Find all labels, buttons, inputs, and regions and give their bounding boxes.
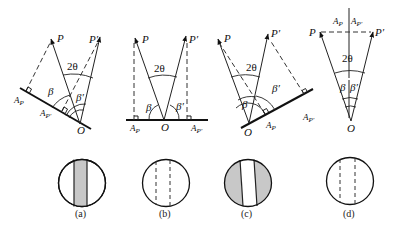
angle-2theta-arc xyxy=(63,74,93,78)
label-o: O xyxy=(161,121,169,133)
viewer-c: (c) xyxy=(220,155,280,220)
vector-p xyxy=(320,32,351,121)
label-beta-prime: β′ xyxy=(271,82,280,94)
label-beta-prime: β′ xyxy=(349,81,358,93)
label-beta: β xyxy=(339,81,346,93)
label-o: O xyxy=(77,124,85,136)
label-p-prime: P′ xyxy=(88,33,99,45)
viewer-d: (d) xyxy=(327,158,374,221)
label-2theta: 2θ xyxy=(67,60,78,72)
label-o: O xyxy=(347,122,355,134)
label-a-p: AP xyxy=(13,95,25,107)
label-p: P xyxy=(223,32,231,44)
label-beta: β xyxy=(241,98,248,110)
label-2theta: 2θ xyxy=(246,61,257,73)
stereo-projection-figure: P P′ 2θ β β′ O AP AP′ P P′ 2θ β β′ O AP … xyxy=(0,0,397,230)
angle-2theta-arc xyxy=(231,75,260,77)
panel-a-diagram: P P′ 2θ β β′ O AP AP′ xyxy=(13,32,100,136)
viewer-b: (b) xyxy=(143,160,190,221)
vector-p-prime xyxy=(80,37,100,124)
label-a-p: AP xyxy=(265,120,277,132)
vector-p xyxy=(218,39,249,123)
label-p: P xyxy=(56,32,64,44)
caption-a: (a) xyxy=(75,208,86,220)
caption-c: (c) xyxy=(241,208,252,220)
projection-p xyxy=(26,41,51,91)
label-beta: β xyxy=(145,101,152,113)
label-beta: β xyxy=(47,85,54,97)
label-a-p-prime: AP′ xyxy=(302,112,315,124)
label-beta-prime: β′ xyxy=(175,100,184,112)
viewer-a: (a) xyxy=(59,158,106,220)
label-p-prime: P′ xyxy=(188,33,199,45)
label-p: P xyxy=(308,26,316,38)
label-o: O xyxy=(244,126,252,138)
caption-d: (d) xyxy=(343,208,355,220)
angle-beta-arc xyxy=(342,98,358,99)
label-p-prime: P′ xyxy=(374,26,385,38)
label-2theta: 2θ xyxy=(342,52,353,64)
panel-c-diagram: P P′ 2θ β β′ O AP AP′ xyxy=(218,27,315,138)
angle-beta-prime-arc xyxy=(256,96,275,110)
angle-beta-prime-arc xyxy=(345,106,356,107)
label-a-p: AP xyxy=(332,16,344,28)
label-a-p-prime: AP′ xyxy=(190,123,203,135)
label-2theta: 2θ xyxy=(154,62,165,74)
panel-d-diagram: P P′ 2θ β β′ O AP AP′ xyxy=(308,8,385,134)
label-a-p-prime: AP′ xyxy=(350,16,363,28)
vector-p-prime xyxy=(351,32,373,121)
angle-beta-arc-outer xyxy=(236,103,265,114)
label-p: P xyxy=(141,33,149,45)
angle-2theta-arc xyxy=(148,75,177,78)
shaded-band xyxy=(74,158,87,208)
panel-b-diagram: P P′ 2θ β β′ O AP AP′ xyxy=(126,33,208,135)
angle-2theta-arc xyxy=(335,71,365,73)
label-a-p-prime: AP′ xyxy=(39,108,52,120)
label-a-p: AP xyxy=(129,123,141,135)
label-p-prime: P′ xyxy=(270,27,281,39)
label-beta-prime: β′ xyxy=(75,91,84,103)
caption-b: (b) xyxy=(159,208,171,220)
